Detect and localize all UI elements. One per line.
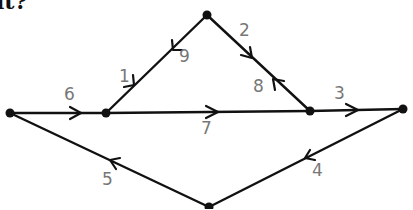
edge-midleft-midright <box>106 111 310 113</box>
node-right <box>399 105 408 114</box>
edge-top-midright <box>207 15 310 111</box>
edge-label-8: 8 <box>253 76 264 96</box>
edge-label-3: 3 <box>334 83 345 103</box>
node-bottom <box>205 203 214 210</box>
edge-label-6: 6 <box>64 84 75 104</box>
node-mid-right <box>306 107 315 116</box>
edge-label-7: 7 <box>201 118 212 138</box>
edge-label-5: 5 <box>102 169 113 189</box>
directed-graph-diagram: it? 1 2 <box>0 0 413 209</box>
graph-canvas: 1 2 3 4 5 6 7 8 9 <box>0 0 413 209</box>
edge-label-4: 4 <box>312 160 323 180</box>
edge-label-9: 9 <box>179 46 190 66</box>
node-mid-left <box>102 109 111 118</box>
edge-label-1: 1 <box>119 66 130 86</box>
node-top <box>203 11 212 20</box>
node-left <box>6 109 15 118</box>
edge-midleft-top <box>106 15 207 113</box>
edge-label-2: 2 <box>239 20 250 40</box>
